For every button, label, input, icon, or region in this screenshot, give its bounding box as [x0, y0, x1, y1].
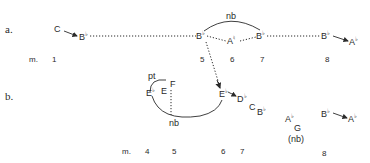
nb-label-b: nb	[169, 119, 179, 128]
note-c-m7: C	[249, 103, 256, 112]
nb-paren-label: (nb)	[288, 135, 304, 144]
note-b-flat-m8-b: B♭	[321, 110, 330, 119]
note-a-flat-m8-b: A♭	[348, 115, 357, 124]
arrow-c-to-bb	[64, 31, 77, 36]
dotted-bb5-an6	[207, 36, 226, 41]
measure-5: 5	[200, 56, 204, 64]
measure-6: 6	[230, 56, 234, 64]
arrow-bb8-ab8	[333, 36, 348, 41]
note-b-flat-m7: B♭	[257, 108, 266, 117]
section-b-label: b.	[5, 91, 13, 102]
note-b-flat-m8: B♭	[321, 32, 330, 41]
note-e-flat-m4: E♭	[146, 89, 155, 98]
note-e-m4: E	[161, 87, 167, 96]
measure-6-b: 6	[221, 148, 225, 156]
measure-7-b: 7	[240, 148, 244, 156]
dotted-diagonal-bb5-eb6	[206, 42, 219, 84]
arrowhead-to-eb6	[217, 80, 220, 88]
arrow-bb8-ab8-b	[333, 113, 347, 118]
pt-label: pt	[148, 72, 156, 81]
note-g-b: G	[294, 124, 301, 133]
note-b-flat-m5: B♭	[196, 32, 205, 41]
note-c: C	[54, 25, 61, 34]
note-f-m5: F	[170, 80, 176, 89]
note-b-flat-m1: B♭	[79, 33, 88, 42]
nb-slur-a	[204, 21, 260, 31]
section-a-label: a.	[5, 24, 13, 35]
note-a-flat-m8: A♭	[349, 38, 358, 47]
measure-1: 1	[52, 56, 56, 64]
measure-8-b: 8	[322, 150, 326, 158]
note-e-flat-m6: E♭	[219, 90, 228, 99]
measure-prefix-a: m.	[29, 56, 38, 64]
nb-label-a: nb	[226, 12, 236, 21]
measure-7: 7	[260, 56, 264, 64]
measure-8: 8	[325, 56, 329, 64]
arrow-eb-db	[228, 92, 236, 96]
measure-5-b: 5	[172, 148, 176, 156]
dotted-an6-bb7	[240, 37, 256, 41]
measure-4-b: 4	[145, 148, 149, 156]
nb-arc-b	[152, 96, 222, 117]
note-a-natural-m6: A♮	[227, 37, 235, 46]
note-b-flat-m7: B♭	[256, 32, 265, 41]
note-a-flat-b: A♭	[285, 115, 294, 124]
note-d-flat-m6: D♭	[237, 95, 247, 104]
measure-prefix-b: m.	[122, 148, 131, 156]
